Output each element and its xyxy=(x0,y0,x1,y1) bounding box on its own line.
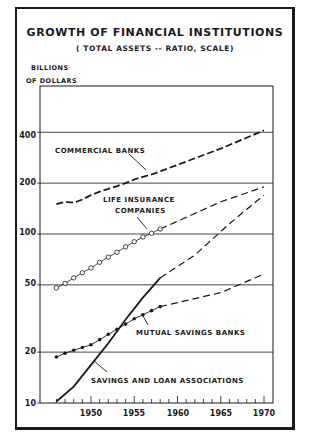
plot-area xyxy=(40,86,273,403)
open-circle-marker xyxy=(89,266,93,270)
y-tick-label: 50 xyxy=(25,279,37,288)
label-life-insurance-1: LIFE INSURANCE xyxy=(103,196,175,204)
filled-dot-marker xyxy=(150,309,154,313)
x-tick-label: 1960 xyxy=(167,409,190,418)
series-mutual-savings-banks xyxy=(55,274,264,359)
pointer-savings-loan xyxy=(94,361,107,372)
y-tick-label: 10 xyxy=(25,399,37,408)
filled-dot-marker xyxy=(63,351,67,355)
annotations: COMMERCIAL BANKS LIFE INSURANCE COMPANIE… xyxy=(55,147,245,385)
y-tick-label: 400 xyxy=(19,131,36,140)
series-savings-and-loan-associations xyxy=(56,195,264,401)
open-circle-marker xyxy=(63,281,67,285)
y-tick-label: 20 xyxy=(25,347,37,356)
open-circle-marker xyxy=(72,276,76,280)
filled-dot-marker xyxy=(98,338,102,342)
filled-dot-marker xyxy=(107,332,111,336)
y-axis-ticks: 400 200 100 50 20 10 xyxy=(19,131,36,408)
y-tick-label: 100 xyxy=(19,228,36,237)
y-tick-label: 200 xyxy=(19,178,36,187)
open-circle-marker xyxy=(80,271,84,275)
x-tick-label: 1965 xyxy=(210,409,233,418)
open-circle-marker xyxy=(115,250,119,254)
x-tick-label: 1970 xyxy=(253,409,276,418)
pointer-commercial xyxy=(129,154,146,170)
open-circle-marker xyxy=(141,235,145,239)
chart-plot: 400 200 100 50 20 10 1950 1955 1960 1965… xyxy=(0,0,310,446)
filled-dot-marker xyxy=(55,355,59,359)
x-axis-labels: 1950 1955 1960 1965 1970 xyxy=(80,409,276,418)
label-life-insurance-2: COMPANIES xyxy=(115,207,166,215)
open-circle-marker xyxy=(97,260,101,264)
x-tick-label: 1955 xyxy=(123,409,146,418)
x-axis-ticks xyxy=(56,396,264,403)
filled-dot-marker xyxy=(158,305,162,309)
x-tick-label: 1950 xyxy=(80,409,103,418)
open-circle-marker xyxy=(149,231,153,235)
label-mutual-savings: MUTUAL SAVINGS BANKS xyxy=(136,329,245,337)
open-circle-marker xyxy=(123,245,127,249)
open-circle-marker xyxy=(132,240,136,244)
filled-dot-marker xyxy=(72,349,76,353)
label-commercial-banks: COMMERCIAL BANKS xyxy=(55,147,145,155)
open-circle-marker xyxy=(54,286,58,290)
filled-dot-marker xyxy=(81,346,85,350)
filled-dot-marker xyxy=(89,343,93,347)
series-commercial-banks xyxy=(56,130,264,204)
filled-dot-marker xyxy=(124,322,128,326)
label-savings-loan: SAVINGS AND LOAN ASSOCIATIONS xyxy=(91,377,244,385)
open-circle-marker xyxy=(158,227,162,231)
pointer-mutual xyxy=(142,314,148,325)
open-circle-marker xyxy=(106,255,110,259)
data-series xyxy=(54,130,264,401)
filled-dot-marker xyxy=(132,317,136,321)
pointer-life-insurance xyxy=(137,217,147,229)
